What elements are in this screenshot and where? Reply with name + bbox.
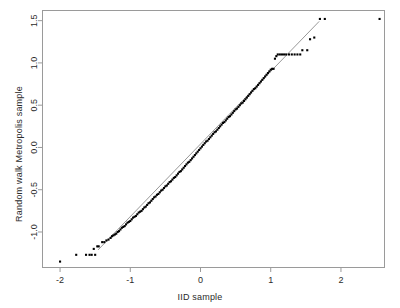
- qq-plot-figure: -2-1012-1.0-0.50.00.51.01.5 IID sample R…: [0, 0, 400, 308]
- data-point: [306, 49, 308, 51]
- y-tick-label: -1.0: [30, 224, 40, 240]
- data-point: [274, 58, 276, 60]
- y-tick-label: 0.5: [30, 99, 40, 112]
- data-point: [59, 261, 61, 263]
- data-point: [85, 254, 87, 256]
- data-point: [93, 248, 95, 250]
- data-point: [288, 53, 290, 55]
- data-point: [75, 254, 77, 256]
- data-points: [59, 18, 381, 263]
- data-point: [299, 53, 301, 55]
- data-point: [301, 49, 303, 51]
- y-tick-label: 1.0: [30, 57, 40, 70]
- x-tick-label: 0: [198, 275, 203, 285]
- data-point: [319, 18, 321, 20]
- x-axis-title: IID sample: [0, 292, 400, 302]
- x-tick-label: 1: [268, 275, 273, 285]
- data-point: [272, 68, 274, 70]
- data-point: [107, 239, 109, 241]
- data-point: [279, 53, 281, 55]
- y-axis-title: Random walk Metropolis sample: [14, 64, 26, 244]
- data-point: [277, 53, 279, 55]
- data-point: [291, 53, 293, 55]
- y-tick-label: 0.0: [30, 141, 40, 154]
- data-point: [91, 254, 93, 256]
- tick-marks: [38, 21, 341, 272]
- data-point: [281, 53, 283, 55]
- data-point: [379, 18, 381, 20]
- data-point: [98, 245, 100, 247]
- plot-canvas: -2-1012-1.0-0.50.00.51.01.5: [0, 0, 400, 308]
- data-point: [294, 53, 296, 55]
- data-point: [296, 53, 298, 55]
- data-point: [94, 254, 96, 256]
- data-point: [101, 241, 103, 243]
- qq-reference-line: [98, 21, 319, 250]
- data-point: [313, 37, 315, 39]
- plot-frame: [43, 11, 385, 268]
- y-tick-label: 1.5: [30, 14, 40, 27]
- data-point: [309, 38, 311, 40]
- x-tick-label: -1: [126, 275, 134, 285]
- data-point: [324, 18, 326, 20]
- data-point: [283, 53, 285, 55]
- x-tick-label: -2: [56, 275, 64, 285]
- data-point: [105, 239, 107, 241]
- data-point: [103, 241, 105, 243]
- y-tick-label: -0.5: [30, 182, 40, 198]
- data-point: [89, 254, 91, 256]
- x-tick-label: 2: [338, 275, 343, 285]
- data-point: [285, 53, 287, 55]
